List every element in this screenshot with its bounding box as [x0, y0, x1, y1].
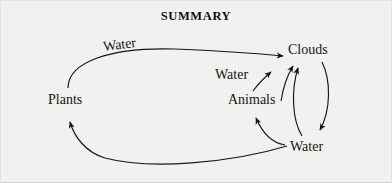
node-clouds: Clouds — [288, 43, 328, 57]
node-plants: Plants — [48, 93, 82, 107]
edge-water-to-animals — [256, 118, 285, 145]
edge-water-to-plants — [70, 122, 287, 164]
edge-animals-to-clouds — [281, 66, 293, 101]
edge-water-to-clouds — [293, 68, 302, 136]
water-cycle-summary-diagram: SUMMARY Water Plants Clouds Water Animal… — [0, 0, 392, 183]
edge-label-animals-to-clouds: Water — [215, 68, 248, 82]
edge-clouds-to-water — [320, 62, 329, 130]
node-water: Water — [290, 140, 323, 154]
node-animals: Animals — [228, 93, 275, 107]
edge-water-label-to-clouds — [253, 72, 271, 91]
edge-plants-to-clouds — [68, 49, 283, 88]
